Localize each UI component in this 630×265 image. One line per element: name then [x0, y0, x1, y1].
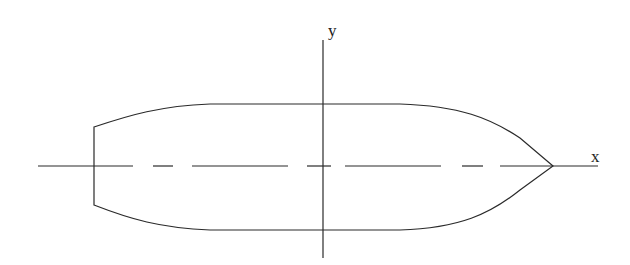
hull-diagram: y x — [0, 0, 630, 265]
x-axis-label: x — [591, 147, 600, 166]
y-axis-label: y — [328, 21, 337, 40]
